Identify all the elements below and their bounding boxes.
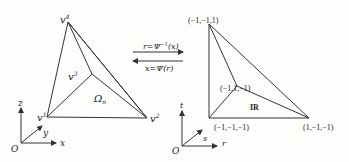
region-omega-label: Ωn: [93, 93, 106, 105]
y-label: y: [42, 128, 49, 138]
y-axis: [21, 126, 42, 143]
vertex-bottom-right-label: (1,−1,−1): [303, 123, 334, 132]
origin-label: O: [11, 144, 19, 154]
ref-origin-label: O: [172, 146, 180, 156]
mapping-arrows: r=Ψ−1(x) x=Ψ(r): [133, 41, 183, 73]
ref-edge-top-inner: [209, 24, 237, 86]
vertex-v1-label: v1: [37, 111, 46, 123]
edge-v4-v2-back: [68, 22, 147, 118]
forward-map-label: r=Ψ−1(x): [143, 41, 179, 51]
ref-tetra-outline: [209, 24, 309, 118]
vertex-top-label: (−1,−1,1): [188, 16, 219, 25]
reference-element: (−1,−1,1) (−1,1,−1) (−1,−1,−1) (1,−1,−1)…: [188, 16, 334, 132]
z-label: z: [17, 98, 23, 108]
s-axis: [182, 130, 202, 146]
t-label: t: [180, 101, 184, 110]
edge-v4-v3: [68, 22, 92, 74]
vertex-v2-label: v2: [150, 112, 160, 124]
mapping-diagram: v4 v3 v1 v2 Ωn z x y O r=Ψ−1(x) x=Ψ(r) (…: [0, 0, 349, 162]
xyz-axes: z x y O: [11, 98, 65, 154]
x-label: x: [60, 138, 65, 148]
s-label: s: [203, 134, 207, 143]
region-ir-label: IR: [250, 103, 259, 112]
physical-element: v4 v3 v1 v2 Ωn: [37, 13, 160, 124]
inverse-map-label: x=Ψ(r): [145, 64, 173, 73]
vertex-v3-label: v3: [68, 70, 78, 82]
r-label: r: [222, 139, 227, 148]
vertex-bottom-left-label: (−1,−1,−1): [214, 123, 249, 132]
vertex-inner-label: (−1,1,−1): [220, 84, 251, 93]
